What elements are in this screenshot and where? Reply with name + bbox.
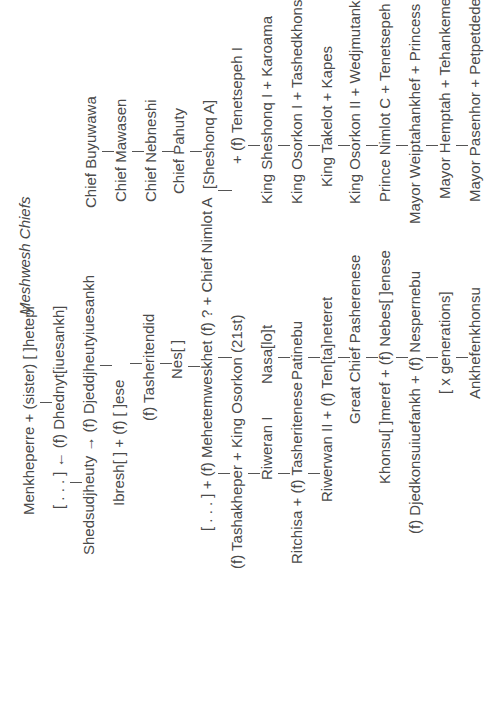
nebneshi-line: Chief Nebneshi: [142, 99, 160, 202]
weiptahankhef-text: Mayor Weiptahankhef + Princess Tenetsepe…: [406, 0, 423, 224]
djedkonsu-text: (f) Djedkonsuiuefankh + (f) Nespernebu: [406, 271, 423, 534]
genealogy-chart: Menkheperre + (sister) [ ]hetepi [ . . .…: [0, 0, 497, 724]
ibresh-line: Ibresh[ ] + (f) [ ]ese: [110, 380, 128, 506]
mehetemweskhet-text: [ . . . ] + (f) Mehetemweskhet (f) ? + C…: [198, 198, 215, 531]
mehetemweskhet-line: [ . . . ] + (f) Mehetemweskhet (f) ? + C…: [198, 198, 216, 531]
tasheritendid-text: (f) Tasheritendid: [140, 314, 157, 421]
connector: [100, 365, 112, 366]
connector: [218, 190, 232, 191]
ritchisa-text: Ritchisa + (f) Tasheritenese: [288, 382, 305, 564]
osorkon2-line: King Osorkon II + Wedjmutankhes: [346, 0, 364, 204]
riwerwan2-line: Riwerwan II + (f) Ten[ta]neteret: [318, 297, 336, 502]
hemptah-text: Mayor Hemptah + Tehankeme: [436, 0, 453, 199]
riweran1-text: Riweran I: [258, 417, 275, 480]
shedsudjheuty-text: Shedsudjheuty → (f) Djeddjheutyiuesankh: [80, 275, 97, 555]
pahuty-line: Chief Pahuty: [170, 108, 188, 194]
osorkon1-text: King Osorkon I + Tashedkhonsu: [288, 0, 305, 204]
ritchisa-line: Ritchisa + (f) Tasheritenese: [288, 382, 306, 564]
ankhefenkhonsu-text: Ankhefenkhonsu: [466, 287, 483, 399]
menkheperre-line: Menkheperre + (sister) [ ]hetepi: [20, 306, 38, 515]
khonsu-text: Khonsu[ ]meref + (f) Nebes[ ]enese: [376, 250, 393, 484]
sheshonq1-text: King Sheshonq I + Karoama: [258, 16, 275, 204]
tashakheper-line: (f) Tashakheper + King Osorkon (21st): [228, 315, 246, 569]
ankhefenkhonsu-line: Ankhefenkhonsu: [466, 287, 484, 399]
nasalot-text: Nasa[lo]t: [258, 325, 275, 384]
nimlotc-line: Prince Nimlot C + Tenetsepeh II: [376, 0, 394, 202]
hemptah-line: Mayor Hemptah + Tehankeme: [436, 0, 454, 199]
riwerwan2-text: Riwerwan II + (f) Ten[ta]neteret: [318, 297, 335, 502]
ibresh-text: Ibresh[ ] + (f) [ ]ese: [110, 380, 127, 506]
xgen-line: [ x generations]: [436, 291, 454, 394]
nes-text: Nes[ ]: [168, 340, 185, 379]
weiptahankhef-line: Mayor Weiptahankhef + Princess Tenetsepe…: [406, 0, 424, 224]
takelot-text: King Takelot + Kapes: [318, 46, 335, 187]
xgen-text: [ x generations]: [436, 291, 453, 394]
dhednyt-text: [ . . . ] ← (f) Dhednyt[iuesankh]: [50, 306, 67, 509]
pasenhor-text: Mayor Pasenhor + Petpetdedes: [466, 0, 483, 202]
pasherenese-line: Great Chief Pasherenese: [346, 255, 364, 424]
patinebu-line: Patinebu: [288, 321, 306, 380]
nimlotc-text: Prince Nimlot C + Tenetsepeh II: [376, 0, 393, 202]
section-title: Meshwesh Chiefs: [16, 197, 34, 315]
buyuwawa-text: Chief Buyuwawa: [82, 96, 99, 208]
mawasen-text: Chief Mawasen: [112, 99, 129, 202]
sheshonqa-text: [Sheshonq A]: [200, 100, 217, 189]
tashakheper-text: (f) Tashakheper + King Osorkon (21st): [228, 315, 245, 569]
tasheritendid-line: (f) Tasheritendid: [140, 314, 158, 421]
djedkonsu-line: (f) Djedkonsuiuefankh + (f) Nespernebu: [406, 271, 424, 534]
dhednyt-line: [ . . . ] ← (f) Dhednyt[iuesankh]: [50, 306, 68, 509]
tenetsepeh1-line: + (f) Tenetsepeh I: [228, 47, 246, 164]
osorkon2-text: King Osorkon II + Wedjmutankhes: [346, 0, 363, 204]
sheshonq1-line: King Sheshonq I + Karoama: [258, 16, 276, 204]
osorkon1-line: King Osorkon I + Tashedkhonsu: [288, 0, 306, 204]
nes-line: Nes[ ]: [168, 340, 186, 379]
title-text: Meshwesh Chiefs: [16, 197, 33, 315]
shedsudjheuty-line: Shedsudjheuty → (f) Djeddjheutyiuesankh: [80, 275, 98, 555]
mawasen-line: Chief Mawasen: [112, 99, 130, 202]
takelot-line: King Takelot + Kapes: [318, 46, 336, 187]
riweran1-line: Riweran I: [258, 417, 276, 480]
sheshonqa-line: [Sheshonq A]: [200, 100, 218, 189]
pahuty-text: Chief Pahuty: [170, 108, 187, 194]
nasalot-line: Nasa[lo]t: [258, 325, 276, 384]
buyuwawa-line: Chief Buyuwawa: [82, 96, 100, 208]
pasenhor-line: Mayor Pasenhor + Petpetdedes: [466, 0, 484, 202]
khonsu-line: Khonsu[ ]meref + (f) Nebes[ ]enese: [376, 250, 394, 484]
nebneshi-text: Chief Nebneshi: [142, 99, 159, 202]
tenetsepeh1-text: + (f) Tenetsepeh I: [228, 47, 245, 164]
pasherenese-text: Great Chief Pasherenese: [346, 255, 363, 424]
menkheperre-text: Menkheperre + (sister) [ ]hetepi: [20, 306, 37, 515]
patinebu-text: Patinebu: [288, 321, 305, 380]
